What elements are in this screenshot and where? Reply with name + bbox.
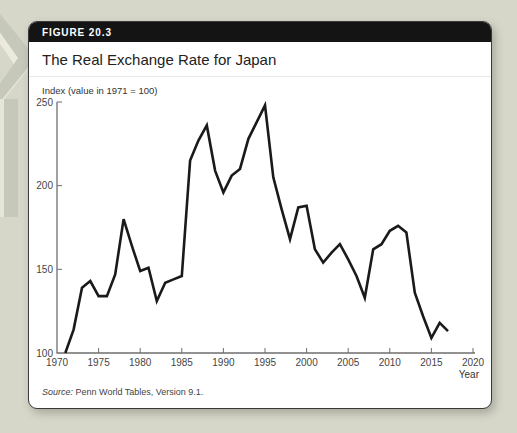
figure-number-label: FIGURE 20.3: [42, 27, 112, 38]
x-tick-label: 2005: [337, 357, 360, 368]
source-text: Penn World Tables, Version 9.1.: [73, 387, 203, 397]
x-tick-label: 1975: [87, 357, 110, 368]
figure-title: The Real Exchange Rate for Japan: [29, 42, 491, 77]
x-tick-label: 1990: [212, 357, 235, 368]
x-tick-label: 2015: [420, 357, 443, 368]
y-tick-label: 250: [36, 97, 53, 108]
y-axis-caption: Index (value in 1971 = 100): [42, 85, 157, 96]
line-chart: 1001502002501970197519801985199019952000…: [29, 22, 491, 408]
x-tick-label: 1980: [129, 357, 152, 368]
x-tick-label: 2010: [379, 357, 402, 368]
source-note: Source: Penn World Tables, Version 9.1.: [42, 387, 203, 397]
x-tick-label: 1995: [254, 357, 277, 368]
axes: [57, 102, 475, 353]
series-line: [65, 105, 448, 353]
figure-card: FIGURE 20.3 The Real Exchange Rate for J…: [28, 21, 492, 409]
x-tick-label: 2000: [295, 357, 318, 368]
y-tick-label: 100: [36, 348, 53, 359]
source-prefix: Source:: [42, 387, 73, 397]
y-tick-label: 200: [36, 180, 53, 191]
x-tick-label: 1970: [46, 357, 69, 368]
x-axis-caption: Year: [459, 369, 479, 380]
figure-number-bar: FIGURE 20.3: [29, 22, 491, 42]
x-tick-label: 1985: [171, 357, 194, 368]
x-tick-label: 2020: [462, 357, 485, 368]
page-background: FIGURE 20.3 The Real Exchange Rate for J…: [0, 0, 517, 433]
y-tick-label: 150: [36, 264, 53, 275]
decorative-side-bar: [0, 99, 18, 217]
